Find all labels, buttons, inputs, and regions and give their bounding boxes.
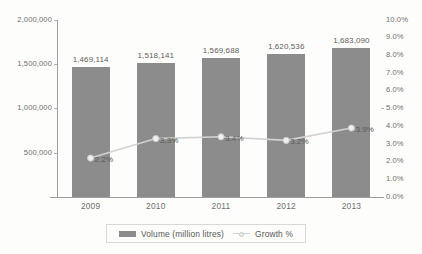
- left-axis-tick-label: 1,000,000: [17, 103, 52, 112]
- legend-entry-growth: Growth %: [233, 229, 293, 239]
- category-label-2010: 2010: [121, 201, 191, 211]
- right-axis-tick-7: 3.0%: [386, 139, 422, 149]
- legend-label-volume: Volume (million litres): [141, 229, 224, 239]
- right-axis-tick-label: 3.0%: [386, 139, 404, 148]
- line-marker-swatch-icon: [233, 231, 250, 237]
- right-axis-tick-label: 9.0%: [386, 32, 404, 41]
- left-axis-tick-1: 1,500,000: [2, 59, 52, 69]
- growth-label-2009: 2.2%: [95, 155, 114, 164]
- x-axis-line: [50, 197, 384, 198]
- category-label-2013: 2013: [316, 201, 386, 211]
- right-axis-tick-label: 7.0%: [386, 68, 404, 77]
- right-axis-tick-label: 10.0%: [386, 15, 408, 24]
- left-axis-tick-2: 1,000,000: [2, 103, 52, 113]
- growth-label-2013: 3.9%: [355, 125, 374, 134]
- right-axis-tick-label: 8.0%: [386, 50, 404, 59]
- left-axis-tick-3: 500,000: [2, 148, 52, 158]
- right-axis-tick-9: 1.0%: [386, 174, 422, 184]
- growth-label-2011: 3.4%: [225, 134, 244, 143]
- right-axis-tick-1: 9.0%: [386, 32, 422, 42]
- combo-chart: 2,000,000 1,500,000 1,000,000 500,000 10…: [0, 0, 422, 254]
- legend-label-growth: Growth %: [255, 229, 293, 239]
- growth-label-2010: 3.3%: [160, 136, 179, 145]
- right-axis-tick-label: 5.0%: [386, 103, 404, 112]
- right-axis-tick-label: 2.0%: [386, 156, 404, 165]
- legend-entry-volume: Volume (million litres): [119, 229, 224, 239]
- right-axis-tick-10: 0.0%: [386, 192, 422, 202]
- chart-legend: Volume (million litres) Growth %: [106, 224, 306, 243]
- plot-area: 1,469,114 1,518,141 1,569,688 1,620,536 …: [58, 20, 384, 197]
- left-axis-tick-0: 2,000,000: [2, 15, 52, 25]
- right-axis-tick-2: 8.0%: [386, 50, 422, 60]
- right-axis-tick-label: 4.0%: [386, 121, 404, 130]
- right-axis-tick-label: 6.0%: [386, 85, 404, 94]
- right-axis-tick-4: 6.0%: [386, 85, 422, 95]
- growth-line-series: [58, 20, 384, 197]
- right-axis-tick-6: 4.0%: [386, 121, 422, 131]
- left-axis-tick-label: 1,500,000: [17, 59, 52, 68]
- bar-swatch-icon: [119, 231, 136, 237]
- left-axis-tick-label: 500,000: [24, 148, 52, 157]
- left-axis-tick-label: 2,000,000: [17, 15, 52, 24]
- category-label-2011: 2011: [186, 201, 256, 211]
- right-axis-tick-3: 7.0%: [386, 68, 422, 78]
- category-label-2009: 2009: [56, 201, 126, 211]
- category-label-2012: 2012: [251, 201, 321, 211]
- right-axis-tick-label: 0.0%: [386, 192, 404, 201]
- right-axis-tick-5: 5.0%: [386, 103, 422, 113]
- right-axis-tick-0: 10.0%: [386, 15, 422, 25]
- right-axis-tick-label: 1.0%: [386, 174, 404, 183]
- right-axis-tick-8: 2.0%: [386, 156, 422, 166]
- growth-label-2012: 3.2%: [290, 137, 309, 146]
